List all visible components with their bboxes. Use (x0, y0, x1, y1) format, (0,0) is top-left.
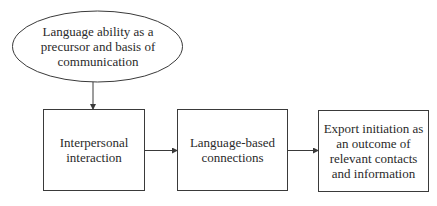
label-line: Export initiation as (324, 121, 424, 136)
label-line: Interpersonal (60, 135, 129, 150)
label-language-connections: Language-based connections (178, 110, 287, 190)
label-line: an outcome of (324, 136, 424, 151)
label-line: Language ability as a (41, 24, 155, 39)
label-language-ability: Language ability as a precursor and basi… (22, 18, 174, 74)
label-line: Language-based (190, 135, 275, 150)
label-line: connections (190, 150, 275, 165)
label-line: communication (41, 54, 155, 69)
label-line: interaction (60, 150, 129, 165)
label-line: relevant contacts (324, 151, 424, 166)
label-line: precursor and basis of (41, 39, 155, 54)
label-interpersonal-interaction: Interpersonal interaction (44, 110, 144, 190)
label-line: and information (324, 166, 424, 181)
label-export-initiation: Export initiation as an outcome of relev… (319, 111, 428, 191)
